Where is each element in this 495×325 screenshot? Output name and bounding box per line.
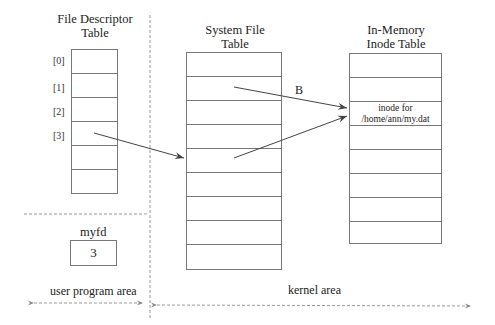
kernel-area-extent-arrow	[157, 305, 471, 306]
arrow-fd3-to-system	[94, 133, 184, 158]
diagram-lines	[0, 0, 495, 325]
arrow-system-to-inode	[234, 116, 347, 158]
arrow-b-system-to-inode	[234, 87, 347, 108]
